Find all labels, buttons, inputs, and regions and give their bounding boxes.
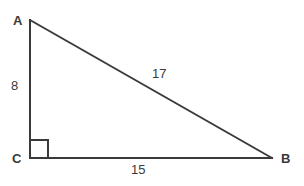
vertex-label-a: A <box>13 14 22 27</box>
side-length-label-ac: 8 <box>11 79 18 92</box>
side-length-label-ab: 17 <box>152 67 166 80</box>
side-length-label-cb: 15 <box>131 163 145 176</box>
side-ab-line <box>30 20 272 158</box>
vertex-label-b: B <box>281 152 290 165</box>
triangle-drawing <box>0 0 304 186</box>
triangle-outline <box>30 20 272 158</box>
right-angle-marker-icon <box>30 140 48 158</box>
triangle-figure-canvas: A C B 8 17 15 <box>0 0 304 186</box>
vertex-label-c: C <box>12 152 21 165</box>
